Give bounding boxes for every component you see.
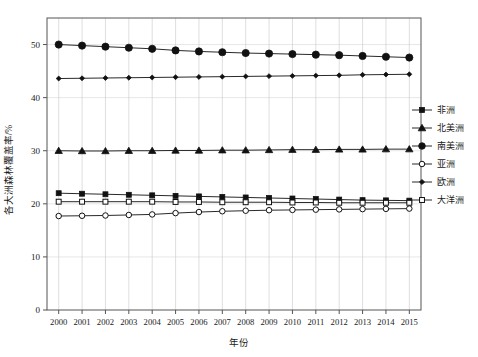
data-point-filled-diamond xyxy=(56,76,61,81)
x-tick-label: 2004 xyxy=(144,317,162,327)
series-filled-square xyxy=(56,191,412,203)
legend-item-欧洲[interactable]: 欧洲 xyxy=(412,176,455,187)
data-point-open-square xyxy=(267,200,272,205)
data-point-open-square xyxy=(56,199,61,204)
x-tick-label: 2009 xyxy=(260,317,277,327)
x-axis-title: 年份 xyxy=(229,337,249,348)
chart-legend: 非洲北美洲南美洲亚洲欧洲大洋洲 xyxy=(412,104,464,205)
series-open-circle xyxy=(56,206,412,219)
data-point-filled-circle xyxy=(125,44,132,51)
data-point-filled-diamond xyxy=(103,76,108,81)
data-point-filled-circle xyxy=(55,41,62,48)
data-point-open-square xyxy=(337,200,342,205)
y-axis-title: 各大洲森林覆盖率/% xyxy=(3,125,14,216)
data-point-open-circle xyxy=(103,213,109,219)
x-tick-label: 2007 xyxy=(214,317,232,327)
data-point-open-square xyxy=(103,199,108,204)
data-point-filled-circle xyxy=(265,50,272,57)
legend-item-南美洲[interactable]: 南美洲 xyxy=(412,140,464,151)
data-point-open-circle xyxy=(149,212,155,218)
data-point-filled-square xyxy=(126,192,131,197)
data-point-filled-diamond xyxy=(290,73,295,78)
x-tick-label: 2006 xyxy=(190,317,208,327)
data-point-open-square xyxy=(80,199,85,204)
data-point-filled-diamond xyxy=(267,74,272,79)
data-point-open-circle xyxy=(220,208,226,214)
data-point-filled-diamond xyxy=(173,75,178,80)
data-point-filled-circle xyxy=(242,49,249,56)
data-point-open-square xyxy=(290,200,295,205)
data-point-filled-square xyxy=(80,191,85,196)
legend-label: 北美洲 xyxy=(437,122,464,133)
x-tick-label: 2015 xyxy=(401,317,418,327)
y-tick-label: 0 xyxy=(36,305,41,315)
data-point-open-square xyxy=(313,200,318,205)
data-point-open-circle xyxy=(56,213,62,219)
data-point-filled-diamond xyxy=(360,72,365,77)
x-tick-label: 2013 xyxy=(354,317,371,327)
data-point-filled-square xyxy=(103,192,108,197)
data-point-filled-diamond xyxy=(80,76,85,81)
data-point-filled-diamond xyxy=(337,73,342,78)
data-point-open-square xyxy=(173,199,178,204)
chart-container: 01020304050 2000200120022003200420052006… xyxy=(0,0,478,357)
data-point-filled-circle xyxy=(289,51,296,58)
x-axis-ticks: 2000200120022003200420052006200720082009… xyxy=(50,310,418,327)
data-point-open-circle xyxy=(419,161,425,167)
data-point-filled-square xyxy=(56,191,61,196)
data-point-filled-diamond xyxy=(150,75,155,80)
x-tick-label: 2008 xyxy=(237,317,254,327)
legend-label: 南美洲 xyxy=(437,140,464,151)
data-point-open-circle xyxy=(290,207,296,213)
data-point-filled-circle xyxy=(102,43,109,50)
data-point-filled-circle xyxy=(219,49,226,56)
series-filled-triangle xyxy=(55,146,413,154)
y-tick-label: 20 xyxy=(31,199,41,209)
data-point-open-square xyxy=(243,200,248,205)
legend-label: 大洋洲 xyxy=(437,194,464,205)
data-point-open-circle xyxy=(126,212,132,218)
data-point-open-circle xyxy=(360,206,366,212)
data-point-filled-square xyxy=(196,194,201,199)
data-point-filled-square xyxy=(173,193,178,198)
x-tick-label: 2005 xyxy=(167,317,184,327)
data-point-filled-circle xyxy=(172,47,179,54)
data-point-open-circle xyxy=(266,207,272,213)
vertical-gridlines xyxy=(59,18,410,310)
x-tick-label: 2001 xyxy=(73,317,90,327)
data-point-open-circle xyxy=(313,207,319,213)
data-point-open-square xyxy=(360,200,365,205)
legend-item-非洲[interactable]: 非洲 xyxy=(412,104,455,115)
data-point-open-square xyxy=(150,199,155,204)
data-point-filled-circle xyxy=(336,52,343,59)
data-point-filled-diamond xyxy=(313,73,318,78)
data-point-open-square xyxy=(383,200,388,205)
data-point-filled-diamond xyxy=(419,179,424,184)
data-point-open-square xyxy=(220,200,225,205)
data-point-filled-circle xyxy=(78,42,85,49)
data-point-open-circle xyxy=(383,206,389,212)
y-axis-ticks: 01020304050 xyxy=(31,40,47,315)
data-point-filled-circle xyxy=(382,53,389,60)
x-tick-label: 2000 xyxy=(50,317,67,327)
data-point-open-circle xyxy=(173,210,179,216)
data-point-filled-circle xyxy=(195,48,202,55)
data-point-filled-circle xyxy=(359,52,366,59)
legend-item-北美洲[interactable]: 北美洲 xyxy=(412,122,464,133)
data-point-filled-diamond xyxy=(383,72,388,77)
data-point-filled-diamond xyxy=(243,74,248,79)
data-point-filled-circle xyxy=(419,143,426,150)
data-point-open-circle xyxy=(196,209,202,215)
data-point-open-circle xyxy=(79,213,85,219)
data-point-open-circle xyxy=(336,207,342,213)
x-tick-label: 2003 xyxy=(120,317,137,327)
data-point-open-square xyxy=(126,199,131,204)
data-point-filled-square xyxy=(420,108,425,113)
data-point-filled-circle xyxy=(406,54,413,61)
x-tick-label: 2011 xyxy=(307,317,324,327)
data-point-filled-diamond xyxy=(196,74,201,79)
data-point-filled-square xyxy=(220,194,225,199)
legend-item-亚洲[interactable]: 亚洲 xyxy=(412,159,455,169)
line-chart: 01020304050 2000200120022003200420052006… xyxy=(0,0,478,357)
data-point-filled-square xyxy=(243,195,248,200)
